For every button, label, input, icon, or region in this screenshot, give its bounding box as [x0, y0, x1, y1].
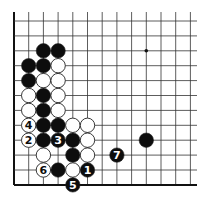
white-stone [80, 148, 94, 162]
black-stone [22, 73, 36, 87]
move-number-label: 4 [25, 119, 33, 132]
move-number-label: 1 [84, 164, 92, 177]
white-stone [80, 118, 94, 132]
black-stone-5: 5 [66, 178, 80, 192]
black-stone [22, 58, 36, 72]
star-points [145, 49, 149, 53]
white-stone [51, 73, 65, 87]
go-board-diagram: 4237615 [0, 0, 210, 207]
black-stone [36, 118, 50, 132]
black-stone [51, 44, 65, 58]
star-point [145, 49, 149, 53]
white-stone [22, 88, 36, 102]
black-stone [36, 103, 50, 117]
white-stone [66, 118, 80, 132]
white-stone [80, 133, 94, 147]
black-stone-3: 3 [51, 133, 65, 147]
move-number-label: 2 [25, 134, 33, 147]
black-stone-7: 7 [110, 148, 124, 162]
black-stone [36, 133, 50, 147]
white-stone [51, 103, 65, 117]
move-number-label: 5 [69, 179, 77, 192]
white-stone [51, 58, 65, 72]
black-stone [36, 58, 50, 72]
black-stone [139, 133, 153, 147]
black-stone [66, 148, 80, 162]
white-stone [66, 163, 80, 177]
black-stone-1: 1 [80, 163, 94, 177]
white-stone-2: 2 [22, 133, 36, 147]
white-stone-6: 6 [36, 163, 50, 177]
black-stone [36, 88, 50, 102]
white-stone [36, 148, 50, 162]
white-stone-4: 4 [22, 118, 36, 132]
move-number-label: 7 [113, 149, 121, 162]
black-stone [51, 163, 65, 177]
black-stone [66, 133, 80, 147]
black-stone [36, 44, 50, 58]
white-stone [22, 103, 36, 117]
move-number-label: 3 [54, 134, 62, 147]
white-stone [51, 88, 65, 102]
move-number-label: 6 [40, 164, 48, 177]
white-stone [36, 73, 50, 87]
black-stone [51, 118, 65, 132]
